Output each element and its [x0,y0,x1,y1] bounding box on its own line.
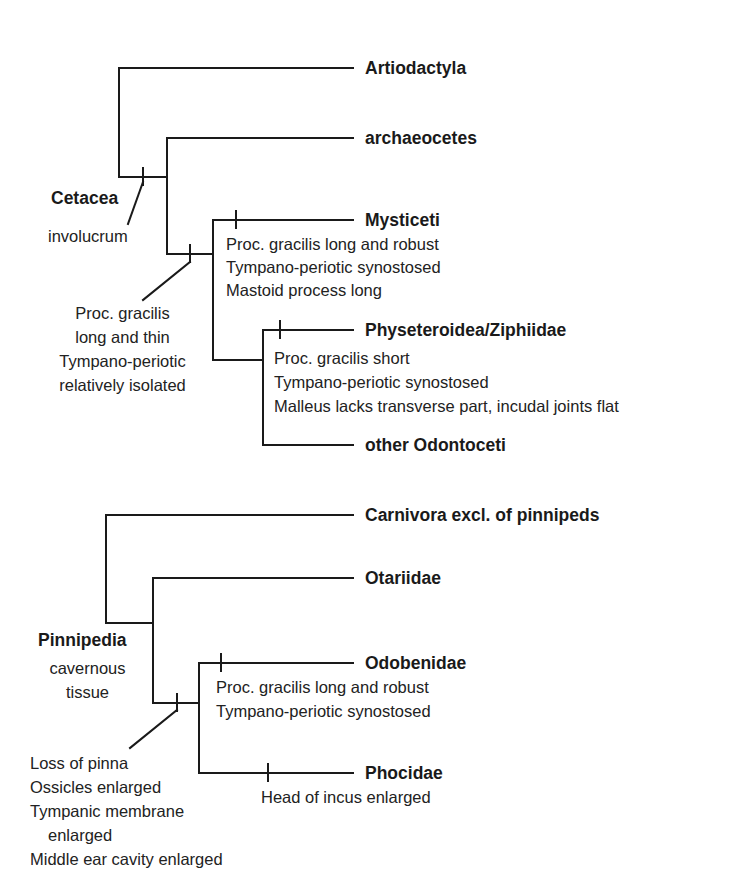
taxon-artiodactyla: Artiodactyla [365,58,466,78]
character-tissue: tissue [30,682,145,702]
character-involucrum: involucrum [48,226,128,246]
cetacea-node-character: long and thin [30,327,215,347]
pinnipedia-node-character: Ossicles enlarged [30,777,161,797]
odobenidae-character: Tympano-periotic synostosed [216,701,431,721]
taxon-other-odontoceti: other Odontoceti [365,435,506,455]
physeteroidea-character: Malleus lacks transverse part, incudal j… [274,396,619,416]
pinnipedia-node-character: Tympanic membrane [30,801,184,821]
branch-artiodactyla [119,68,353,177]
taxon-odobenidae: Odobenidae [365,653,466,673]
physeteroidea-character: Tympano-periotic synostosed [274,372,489,392]
mysticeti-character: Tympano-periotic synostosed [226,257,441,277]
phocidae-character: Head of incus enlarged [261,787,431,807]
physeteroidea-character: Proc. gracilis short [274,348,410,368]
taxon-phocidae: Phocidae [365,763,443,783]
branch-carnivora [106,515,353,623]
taxon-mysticeti: Mysticeti [365,210,440,230]
pinnipedia-node-character: Middle ear cavity enlarged [30,849,223,869]
taxon-archaeocetes: archaeocetes [365,128,477,148]
cetacea-node-character: Proc. gracilis [30,303,215,323]
clade-label-cetacea: Cetacea [51,188,118,208]
pointer-node-pinnipedia [130,710,177,748]
cetacea-node-character: relatively isolated [30,375,215,395]
odobenidae-character: Proc. gracilis long and robust [216,677,429,697]
clade-label-pinnipedia: Pinnipedia [38,630,126,650]
taxon-otariidae: Otariidae [365,568,441,588]
character-cavernous: cavernous [30,658,145,678]
taxon-physeteroidea-ziphiidae: Physeteroidea/Ziphiidae [365,320,566,340]
mysticeti-character: Proc. gracilis long and robust [226,234,439,254]
pointer-cetacea [128,182,143,224]
taxon-carnivora: Carnivora excl. of pinnipeds [365,505,599,525]
pinnipedia-node-character: Loss of pinna [30,753,128,773]
cetacea-node-character: Tympano-periotic [30,351,215,371]
mysticeti-character: Mastoid process long [226,280,382,300]
pointer-node-cetacea [143,262,190,300]
pinnipedia-tree [106,515,353,781]
pinnipedia-node-character: enlarged [48,825,112,845]
